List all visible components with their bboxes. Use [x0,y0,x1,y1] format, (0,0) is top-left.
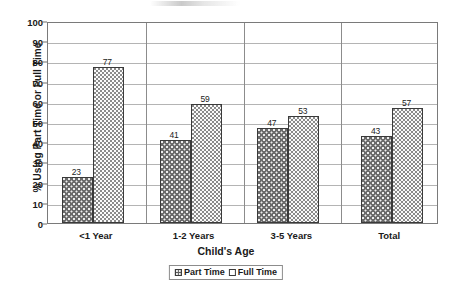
x-tick-label: 3-5 Years [271,230,313,241]
bar-value-label: 23 [72,167,81,177]
bar-part-time [62,177,93,223]
category-separator [341,23,342,223]
y-tick-label: 80 [3,57,43,68]
y-tick-label: 30 [3,158,43,169]
bar-full-time [93,67,124,223]
plot-area [47,22,438,224]
bar-value-label: 77 [103,57,112,67]
legend-swatch-full-time-icon [229,269,236,276]
y-tick-label: 70 [3,77,43,88]
legend-swatch-part-time-icon [175,269,182,276]
y-tick-label: 0 [3,219,43,230]
legend-item-part-time: Part Time [175,267,225,277]
y-tick-label: 10 [3,198,43,209]
y-tick-label: 90 [3,37,43,48]
gridline [48,43,437,44]
scan-artifact [150,1,240,6]
y-tick-label: 60 [3,97,43,108]
legend-label-full-time: Full Time [238,267,277,277]
bar-full-time [392,108,423,223]
y-tick-label: 100 [3,17,43,28]
x-tick-label: Total [378,230,400,241]
legend-item-full-time: Full Time [229,267,277,277]
y-tick-label: 20 [3,178,43,189]
bar-value-label: 53 [298,106,307,116]
bar-part-time [361,136,392,223]
bar-value-label: 43 [371,126,380,136]
x-axis-title: Child's Age [0,245,452,257]
bar-value-label: 47 [267,118,276,128]
x-tick-label: <1 Year [79,230,112,241]
bar-full-time [288,116,319,223]
bar-value-label: 59 [200,94,209,104]
y-tick-label: 50 [3,118,43,129]
bar-part-time [257,128,288,223]
bar-value-label: 41 [169,130,178,140]
bar-full-time [191,104,222,223]
bar-value-label: 57 [402,98,411,108]
bar-chart: % Using Part Time or Full Time 010203040… [0,0,452,289]
legend-label-part-time: Part Time [184,267,225,277]
category-separator [244,23,245,223]
bar-part-time [160,140,191,223]
legend: Part Time Full Time [169,265,283,280]
category-separator [146,23,147,223]
x-tick-label: 1-2 Years [173,230,215,241]
y-tick-label: 40 [3,138,43,149]
